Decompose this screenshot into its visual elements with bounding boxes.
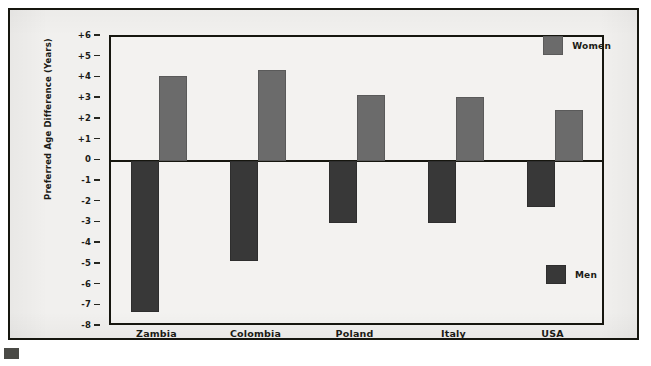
y-axis-tick: 0 [85, 153, 100, 165]
y-axis-tick-label: -7 [81, 299, 91, 309]
y-axis-tick: +4 [78, 70, 100, 82]
bar-women [258, 70, 286, 161]
legend-entry-women: Women [543, 36, 611, 55]
y-axis-tick: -8 [81, 319, 100, 331]
y-axis-tick: +6 [78, 29, 100, 41]
y-axis-tick-label: +1 [78, 134, 91, 144]
bar-group [329, 37, 385, 323]
y-axis-tick-mark-icon [94, 200, 100, 202]
bar-men [428, 161, 456, 223]
bar-women [159, 76, 187, 161]
legend-label-women: Women [572, 41, 611, 51]
y-axis-tick-label: -2 [81, 196, 91, 206]
y-axis-tick-label: 0 [85, 154, 91, 164]
x-axis-tick-label: Italy [441, 328, 466, 339]
legend-swatch-men-icon [546, 265, 566, 284]
y-axis-tick-mark-icon [94, 221, 100, 223]
y-axis-tick: -7 [81, 298, 100, 310]
bar-men [131, 161, 159, 312]
y-axis-tick-mark-icon [94, 324, 100, 326]
y-axis-tick: +5 [78, 50, 100, 62]
y-axis-tick-mark-icon [94, 34, 100, 36]
y-axis-tick-label: -4 [81, 237, 91, 247]
y-axis-tick-mark-icon [94, 55, 100, 57]
y-axis-tick-mark-icon [94, 117, 100, 119]
y-axis-tick-label: -1 [81, 175, 91, 185]
legend-entry-men: Men [546, 265, 597, 284]
y-axis-tick: -6 [81, 278, 100, 290]
y-axis-tick-mark-icon [94, 76, 100, 78]
y-axis-tick-labels: +6+5+4+3+2+10-1-2-3-4-5-6-7-8 [70, 32, 100, 328]
bar-men [527, 161, 555, 207]
y-axis-tick: +1 [78, 133, 100, 145]
y-axis-tick-label: +3 [78, 92, 91, 102]
bar-men [329, 161, 357, 223]
y-axis-tick: -3 [81, 215, 100, 227]
y-axis-tick-label: +6 [78, 30, 91, 40]
x-axis-tick-label: Colombia [230, 328, 281, 339]
y-axis-tick: -4 [81, 236, 100, 248]
y-axis-tick: +2 [78, 112, 100, 124]
y-axis-tick-label: +2 [78, 113, 91, 123]
y-axis-tick-label: -6 [81, 279, 91, 289]
y-axis-tick: -5 [81, 257, 100, 269]
x-axis-tick-labels: ZambiaColombiaPolandItalyUSA [109, 328, 604, 346]
y-axis-tick: -2 [81, 195, 100, 207]
bar-men [230, 161, 258, 260]
y-axis-title: Preferred Age Difference (Years) [43, 19, 53, 219]
y-axis-tick-mark-icon [94, 241, 100, 243]
legend-swatch-women-icon [543, 36, 563, 55]
x-axis-tick-label: Zambia [136, 328, 177, 339]
bar-women [456, 97, 484, 161]
y-axis-tick-mark-icon [94, 304, 100, 306]
y-axis-tick-label: +4 [78, 71, 91, 81]
y-axis-tick-label: -8 [81, 320, 91, 330]
x-axis-tick-label: USA [541, 328, 564, 339]
plot-area [109, 35, 604, 325]
bar-women [555, 110, 583, 162]
y-axis-tick-label: -3 [81, 216, 91, 226]
bar-group [428, 37, 484, 323]
y-axis-tick-mark-icon [94, 159, 100, 161]
y-axis-tick: -1 [81, 174, 100, 186]
bar-women [357, 95, 385, 161]
legend-label-men: Men [575, 270, 597, 280]
figure-frame: Preferred Age Difference (Years) +6+5+4+… [8, 8, 639, 340]
x-axis-tick-label: Poland [336, 328, 374, 339]
y-axis-tick-mark-icon [94, 283, 100, 285]
page-corner-artifact [4, 348, 19, 359]
y-axis-tick-label: +5 [78, 51, 91, 61]
y-axis-tick-label: -5 [81, 258, 91, 268]
plot-inner [111, 37, 602, 323]
bar-group [131, 37, 187, 323]
bar-group [230, 37, 286, 323]
y-axis-tick-mark-icon [94, 179, 100, 181]
y-axis-tick-mark-icon [94, 138, 100, 140]
y-axis-tick-mark-icon [94, 262, 100, 264]
y-axis-tick-mark-icon [94, 96, 100, 98]
y-axis-tick: +3 [78, 91, 100, 103]
